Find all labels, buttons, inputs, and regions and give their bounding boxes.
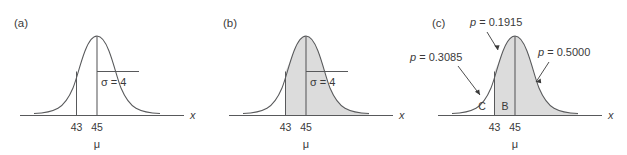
panel-c-annotation-p-0-3085-symbol: p (409, 51, 416, 63)
panel-c: (c) C B p = 0.1915 p = 0.3085 p = 0.5000… (418, 0, 627, 155)
panel-c-region-c-label: C (478, 100, 486, 112)
panel-c-leader-p-0-3085 (458, 66, 480, 95)
panel-b-axis-label: x (398, 109, 405, 121)
panel-c-mu-label: μ (512, 138, 518, 150)
normal-distribution-figure: (a) σ = 4 43 45 μ x (b) σ = 4 43 45 μ x (0, 0, 627, 155)
panel-a-tick-45: 45 (91, 121, 103, 133)
panel-c-leader-p-0-5000 (536, 62, 549, 82)
panel-b-label: (b) (223, 17, 237, 29)
panel-a-mu-label: μ (94, 138, 100, 150)
panel-c-label: (c) (432, 17, 446, 29)
panel-c-annotation-p-0-1915-symbol: p (469, 16, 476, 28)
panel-c-annotation-p-0-5000: p = 0.5000 (537, 46, 590, 58)
panel-a-sigma-label: σ = 4 (101, 76, 126, 88)
panel-a: (a) σ = 4 43 45 μ x (0, 0, 209, 155)
panel-c-annotation-p-0-5000-value: = 0.5000 (544, 46, 590, 58)
panel-b-tick-43: 43 (280, 121, 292, 133)
panel-a-axis-label: x (189, 109, 196, 121)
panel-c-tick-43: 43 (489, 121, 501, 133)
panel-c-arrowhead-p-0-1915 (494, 45, 499, 50)
panel-c-annotation-p-0-1915-value: = 0.1915 (476, 16, 522, 28)
panel-b-sigma-label: σ = 4 (310, 76, 335, 88)
panel-c-annotation-p-0-1915: p = 0.1915 (469, 16, 522, 28)
panel-c-annotation-p-0-5000-symbol: p (537, 46, 544, 58)
panel-b-mu-label: μ (303, 138, 309, 150)
panel-c-tick-45: 45 (509, 121, 521, 133)
panel-c-region-b-label: B (501, 100, 508, 112)
panel-c-annotation-p-0-3085: p = 0.3085 (409, 51, 462, 63)
panel-b-tick-45: 45 (300, 121, 312, 133)
panel-b: (b) σ = 4 43 45 μ x (209, 0, 418, 155)
panel-a-tick-43: 43 (71, 121, 83, 133)
panel-c-axis-label: x (607, 109, 614, 121)
panel-a-label: (a) (14, 17, 28, 29)
panel-c-arrowhead-p-0-3085 (475, 90, 480, 96)
panel-c-annotation-p-0-3085-value: = 0.3085 (416, 51, 462, 63)
